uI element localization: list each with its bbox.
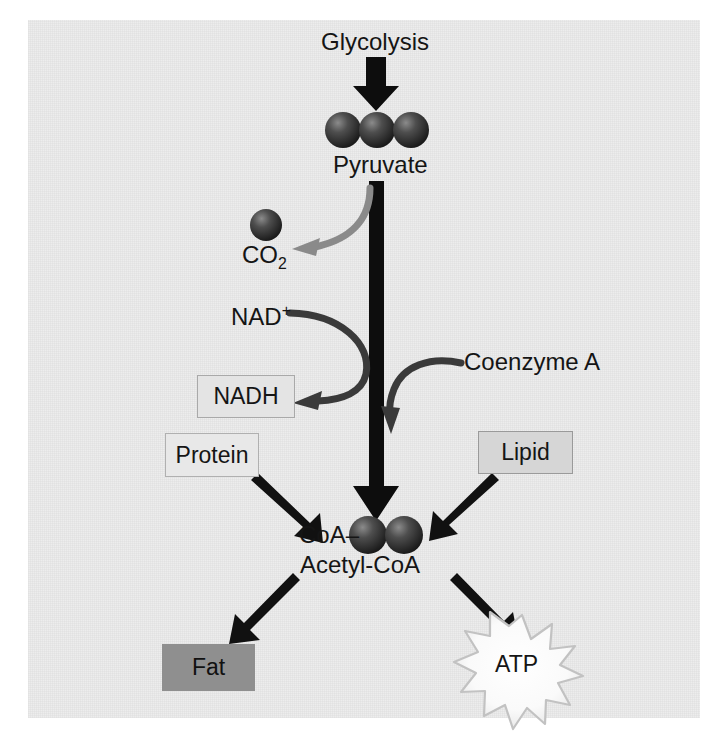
- diagram-root: Glycolysis Pyruvate CO2 NAD+ Coenzyme A …: [0, 0, 717, 737]
- label-coenzyme-a: Coenzyme A: [464, 350, 600, 374]
- box-nadh: NADH: [197, 375, 295, 418]
- label-nad-superscript: +: [282, 302, 291, 319]
- label-glycolysis: Glycolysis: [321, 30, 429, 54]
- label-nad-plus: NAD+: [231, 303, 291, 329]
- label-coa-prefix: CoA–: [299, 523, 359, 547]
- label-acetyl-coa: Acetyl-CoA: [300, 553, 420, 577]
- label-pyruvate: Pyruvate: [333, 153, 428, 177]
- label-atp: ATP: [495, 653, 538, 676]
- label-co2-base: CO: [242, 241, 278, 268]
- box-lipid: Lipid: [478, 431, 573, 474]
- label-co2: CO2: [242, 243, 287, 272]
- box-protein: Protein: [165, 433, 259, 477]
- label-nad-base: NAD: [231, 303, 282, 330]
- box-fat: Fat: [162, 644, 255, 691]
- label-co2-subscript: 2: [278, 255, 287, 272]
